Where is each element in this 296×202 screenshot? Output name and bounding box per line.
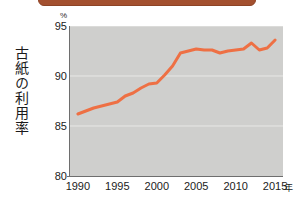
y-axis-ticks: 80859095 [44, 26, 67, 176]
x-axis-line [67, 176, 283, 177]
title-banner [38, 0, 256, 6]
x-tick-label: 2000 [145, 180, 169, 192]
x-tick-label: 1995 [105, 180, 129, 192]
x-axis-unit-label: 年 [284, 181, 293, 194]
line-series-utilization-rate [78, 40, 275, 114]
x-axis-ticks: 199019952000200520102015 [70, 180, 283, 196]
y-tick-label: 95 [44, 20, 67, 32]
chart-figure: 古紙の利用率 % 80859095 1990199520002005201020… [0, 0, 296, 202]
x-tick-label: 2005 [184, 180, 208, 192]
plot-area [70, 26, 283, 176]
y-axis-line [69, 26, 70, 177]
y-tick-label: 90 [44, 70, 67, 82]
plot-svg [70, 26, 283, 176]
x-tick-label: 2010 [223, 180, 247, 192]
y-axis-caption: 古紙の利用率 [2, 46, 28, 166]
y-tick-label: 85 [44, 120, 67, 132]
x-tick-label: 1990 [66, 180, 90, 192]
gridlines [70, 26, 283, 126]
y-tick-label: 80 [44, 170, 67, 182]
y-axis-unit-label: % [60, 11, 67, 20]
